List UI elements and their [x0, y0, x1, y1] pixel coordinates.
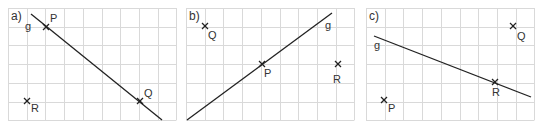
point-label-P: P: [388, 102, 395, 114]
panel-label: a): [11, 9, 22, 23]
panel-a: a)gPQR: [8, 8, 177, 121]
point-label-P: P: [50, 12, 57, 24]
panel-b: b)gQPR: [186, 8, 355, 121]
point-label-R: R: [31, 102, 39, 114]
line-label: g: [25, 20, 31, 32]
point-label-Q: Q: [517, 30, 526, 42]
point-label-Q: Q: [144, 87, 153, 99]
line-label: g: [325, 19, 331, 31]
point-label-R: R: [333, 73, 341, 85]
point-label-P: P: [264, 67, 271, 79]
line-label: g: [374, 39, 380, 51]
panel-label: c): [369, 9, 379, 23]
point-label-R: R: [492, 86, 500, 98]
cross-mark-icon: [510, 23, 516, 29]
panel-c: c)gQRP: [366, 8, 535, 121]
geometry-figure: a)gPQRb)gQPRc)gQRP: [0, 0, 537, 129]
panel-label: b): [189, 9, 200, 23]
point-label-Q: Q: [208, 29, 217, 41]
